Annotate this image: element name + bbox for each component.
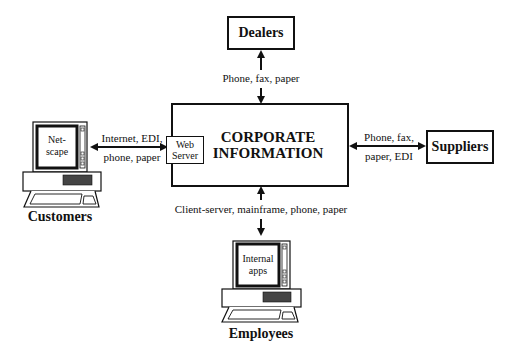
web-server-node: Web Server (166, 136, 204, 164)
suppliers-edge-label: Phone, fax, paper, EDI (354, 131, 424, 163)
suppliers-edge-line1: Phone, fax, (354, 131, 424, 144)
customers-edge-label: Internet, EDI, phone, paper (96, 132, 168, 164)
employee-screen-text: Internal apps (239, 253, 277, 277)
employee-screen-line1: Internal (239, 253, 277, 265)
customer-screen-line1: Net- (39, 134, 75, 146)
employees-label: Employees (211, 326, 311, 342)
suppliers-node: Suppliers (426, 130, 494, 164)
customer-screen-line2: scape (39, 146, 75, 158)
employees-edge-label: Client-server, mainframe, phone, paper (161, 203, 361, 216)
web-server-line2: Server (172, 150, 198, 161)
employee-screen-line2: apps (239, 265, 277, 277)
suppliers-label: Suppliers (432, 139, 489, 155)
customers-edge-line2: phone, paper (96, 151, 168, 164)
corporate-line2: INFORMATION (213, 145, 324, 161)
dealers-node: Dealers (227, 16, 295, 50)
customers-edge-line1: Internet, EDI, (96, 132, 168, 145)
customers-label: Customers (10, 209, 110, 225)
dealers-label: Dealers (238, 25, 283, 41)
customer-screen-text: Net- scape (39, 134, 75, 158)
corporate-line1: CORPORATE (221, 129, 316, 145)
suppliers-edge-line2: paper, EDI (354, 150, 424, 163)
dealers-edge-label: Phone, fax, paper (211, 72, 311, 85)
web-server-line1: Web (176, 139, 194, 150)
